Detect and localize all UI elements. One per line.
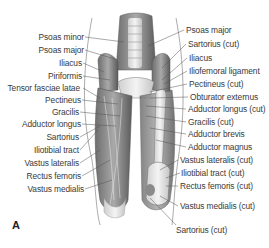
label-adductor-longus: Adductor longus <box>22 119 81 129</box>
label-psoas-major-right: Psoas major <box>186 25 231 35</box>
label-vastus-lateralis-cut: Vastus lateralis (cut) <box>180 155 253 165</box>
panel-label: A <box>12 219 20 231</box>
label-adductor-longus-cut: Adductor longus (cut) <box>188 104 266 114</box>
label-sartorius: Sartorius <box>46 132 79 142</box>
label-psoas-major: Psoas major <box>39 45 84 55</box>
label-iliacus-right: Iliacus <box>189 53 212 63</box>
label-piriformis: Piriformis <box>48 71 82 81</box>
label-iliacus: Iliacus <box>59 58 82 68</box>
label-iliotibial-tract: Iliotibial tract <box>34 145 79 155</box>
label-gracilis-cut: Gracilis (cut) <box>188 117 234 127</box>
label-adductor-magnus: Adductor magnus <box>188 142 252 152</box>
label-rectus-femoris-cut: Rectus femoris (cut) <box>180 181 253 191</box>
label-pectineus-cut: Pectineus (cut) <box>189 79 243 89</box>
label-psoas-minor: Psoas minor <box>39 32 84 42</box>
label-obturator-externus: Obturator externus <box>190 92 258 102</box>
label-rectus-femoris: Rectus femoris <box>27 171 81 181</box>
label-pectineus: Pectineus <box>45 95 81 105</box>
label-adductor-brevis: Adductor brevis <box>188 129 245 139</box>
label-iliofemoral-ligament: Iliofemoral ligament <box>189 66 260 76</box>
label-tensor-fasciae-latae: Tensor fasciae latae <box>8 83 81 93</box>
label-gracilis: Gracilis <box>52 107 79 117</box>
label-vastus-medialis-cut: Vastus medialis (cut) <box>180 201 255 211</box>
label-sartorius-cut-lower: Sartorius (cut) <box>176 225 227 235</box>
label-iliotibial-tract-cut: Iliotibial tract (cut) <box>181 168 244 178</box>
label-sartorius-cut: Sartorius (cut) <box>188 39 239 49</box>
label-vastus-medialis: Vastus medialis <box>27 184 84 194</box>
label-vastus-lateralis: Vastus lateralis <box>24 158 79 168</box>
